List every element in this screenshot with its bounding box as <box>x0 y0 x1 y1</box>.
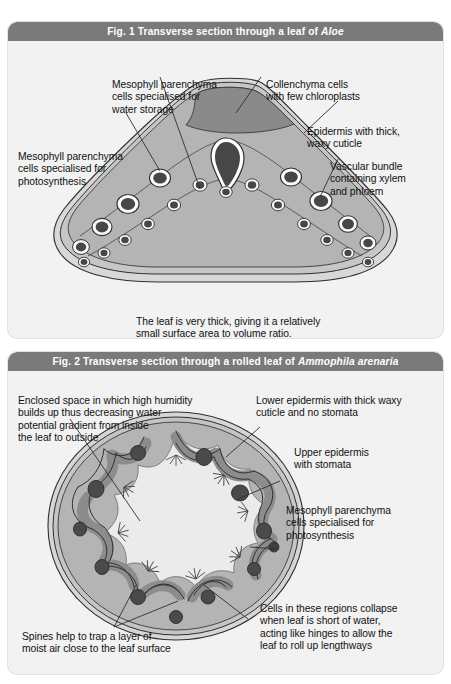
figure-2-panel: Fig. 2 Transverse section through a roll… <box>8 352 443 674</box>
figure-1-panel: Fig. 1 Transverse section through a leaf… <box>8 22 443 338</box>
label-mesophyll-water-storage: Mesophyll parenchyma cells specialised f… <box>112 79 262 116</box>
label-leaf-thickness-note: The leaf is very thick, giving it a rela… <box>136 316 366 338</box>
label-mesophyll-photosynthesis-2: Mesophyll parenchyma cells specialised f… <box>286 505 436 542</box>
label-collenchyma: Collenchyma cells with few chloroplasts <box>266 79 416 104</box>
figure-1-title: Fig. 1 Transverse section through a leaf… <box>8 22 443 41</box>
figure-sheet: Fig. 1 Transverse section through a leaf… <box>0 0 451 684</box>
label-upper-epidermis: Upper epidermis with stomata <box>294 447 434 472</box>
figure-2-title-species: Ammophila arenaria <box>298 356 399 367</box>
label-hinge-cells: Cells in these regions collapse when lea… <box>260 603 440 652</box>
label-epidermis-cuticle: Epidermis with thick, waxy cuticle <box>307 126 443 151</box>
label-lower-epidermis: Lower epidermis with thick waxy cuticle … <box>256 395 441 420</box>
figure-1-body: Mesophyll parenchyma cells specialised f… <box>8 41 443 338</box>
label-enclosed-space: Enclosed space in which high humidity bu… <box>18 395 253 444</box>
label-vascular-bundle: Vascular bundle containing xylem and phl… <box>330 161 443 198</box>
figure-2-body: Enclosed space in which high humidity bu… <box>8 371 443 674</box>
label-mesophyll-photosynthesis: Mesophyll parenchyma cells specialised f… <box>18 151 168 188</box>
label-spines: Spines help to trap a layer of moist air… <box>22 631 252 656</box>
figure-1-title-prefix: Fig. 1 Transverse section through a leaf… <box>107 26 321 37</box>
figure-2-title: Fig. 2 Transverse section through a roll… <box>8 352 443 371</box>
figure-2-title-prefix: Fig. 2 Transverse section through a roll… <box>52 356 297 367</box>
figure-1-title-species: Aloe <box>321 26 344 37</box>
